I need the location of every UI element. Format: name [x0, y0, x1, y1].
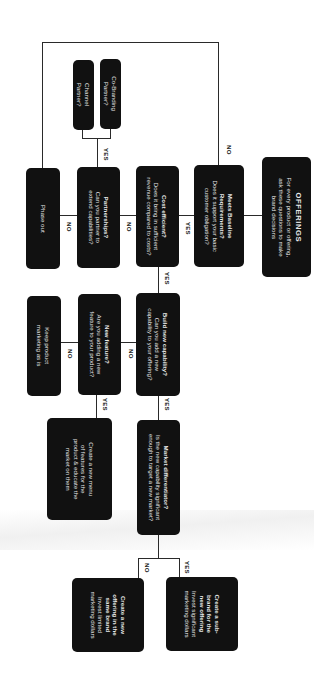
cost-line-2: revenue compared to costs? [146, 177, 154, 255]
connector-loop-left [42, 42, 43, 169]
label-baseline-no: NO [226, 145, 232, 155]
label-feature-no: NO [67, 349, 73, 359]
label-partner-yes: YES [103, 148, 109, 161]
same-brand-line-2: marketing dollars [89, 591, 97, 638]
menu-line-3: product & educate the [72, 439, 80, 500]
same-brand-line-1: Invest limited [97, 597, 105, 633]
sub-brand-line-2: marketing dollars [183, 590, 191, 637]
offerings-line-1: For every product or offering, [285, 177, 293, 257]
feature-title: New feature? [103, 325, 111, 364]
channel-line-1: Channel [84, 83, 92, 106]
label-market-no: NO [144, 563, 150, 573]
sub-brand-title-2: brand for the [206, 595, 214, 633]
build-line-2: capability to your offering? [147, 308, 155, 380]
cost-line-1: Does it bring in sufficient [154, 183, 162, 250]
sub-brand-title-3: new offering [198, 596, 206, 633]
connector-partner-yes [97, 139, 98, 167]
connector-offerings-baseline [244, 215, 262, 216]
baseline-line-2: customer obligation? [204, 187, 212, 244]
bracket-left [82, 130, 83, 139]
connector-cost-build [158, 267, 159, 293]
node-sub-brand: Create a sub- brand for the new offering… [166, 577, 238, 651]
co-branding-line-1: Co-Branding [111, 77, 119, 112]
partnerships-line-1: Can you partner to [95, 192, 103, 243]
offerings-line-2: ask these questions to make [278, 178, 286, 256]
label-build-yes: YES [164, 398, 170, 411]
label-partner-no: NO [66, 222, 72, 232]
phase-out-text: Phase out [39, 205, 47, 233]
node-partnerships: Partnerships? Can you partner to extend … [77, 167, 120, 268]
branch-yes-down [179, 558, 180, 577]
menu-line-2: of features for the [80, 445, 88, 494]
cost-title: Cost efficient? [161, 195, 169, 238]
node-cost-efficient: Cost efficient? Does it bring in suffici… [136, 166, 179, 267]
label-baseline-yes: YES [185, 222, 191, 235]
connector-build-feature [121, 342, 136, 343]
node-keep-marketing: Keep product marketing as is [27, 296, 61, 396]
label-cost-no: NO [126, 222, 132, 232]
connector-baseline-cost [179, 215, 194, 216]
branch-no-down [138, 558, 139, 578]
market-line-2: enough to target a new market? [147, 434, 155, 521]
menu-line-4: market on them [64, 448, 72, 491]
connector-feature-keep [61, 342, 78, 343]
label-cost-yes: YES [164, 272, 170, 285]
offerings-line-3: brand decisions [270, 195, 278, 238]
branch-horizontal [138, 558, 180, 559]
label-market-yes: YES [184, 561, 190, 574]
build-title: Build new capability? [162, 313, 170, 376]
connector-build-market [158, 396, 159, 420]
bracket-right [110, 129, 111, 139]
partnerships-title: Partnerships? [102, 197, 110, 239]
same-brand-title-1: Create a new [119, 596, 127, 634]
bracket-bottom [82, 138, 111, 139]
keep-line-2: marketing as is [36, 325, 44, 367]
node-channel-partner: Channel Partner? [73, 60, 94, 130]
node-same-brand: Create a new offering in the same brand … [72, 578, 144, 652]
label-feature-yes: YES [102, 398, 108, 411]
build-line-1: Can you add a new [154, 318, 162, 371]
node-offerings: OFFERINGS For every product or offering,… [262, 157, 311, 277]
menu-line-1: Create a new menu [87, 442, 95, 496]
node-build-new-capability: Build new capability? Can you add a new … [136, 293, 180, 396]
keep-line-1: Keep product [44, 328, 52, 365]
baseline-title-1: Meets Baseline [227, 194, 235, 239]
sub-brand-title-1: Create a sub- [213, 594, 221, 633]
feature-line-1: Are you adding a new [96, 315, 104, 375]
connector-cost-partner [120, 215, 136, 216]
node-create-menu: Create a new menu of features for the pr… [47, 418, 112, 520]
connector-market-down [158, 535, 159, 558]
partnerships-line-2: extend capabilities? [87, 190, 95, 244]
co-branding-line-2: Partner? [103, 82, 111, 106]
node-market-differentiator: Market differentiator? Is the new capabi… [137, 420, 180, 535]
channel-line-2: Partner? [76, 83, 84, 107]
node-meets-baseline: Meets Baseline Requirements? Does it sup… [194, 165, 244, 267]
connector-loop-top [42, 42, 219, 43]
connector-feature-menu [96, 395, 97, 418]
same-brand-title-2: offering in the [112, 594, 120, 635]
sub-brand-line-1: Invest significant [191, 591, 199, 637]
baseline-title-2: Requirements? [219, 193, 227, 238]
market-line-1: Is the new capability significant [155, 435, 163, 520]
label-build-no: NO [128, 349, 134, 359]
same-brand-title-3: same brand [104, 598, 112, 633]
connector-partner-phaseout [60, 215, 77, 216]
feature-line-2: feature to your product? [88, 312, 96, 378]
node-phase-out: Phase out [26, 168, 60, 269]
node-co-branding: Co-Branding Partner? [100, 59, 121, 129]
connector-loop-right [218, 42, 219, 166]
offerings-title: OFFERINGS [293, 192, 303, 242]
node-new-feature: New feature? Are you adding a new featur… [78, 294, 121, 395]
market-title: Market differentiator? [162, 446, 170, 510]
baseline-line-1: Does it support your basic [211, 180, 219, 252]
